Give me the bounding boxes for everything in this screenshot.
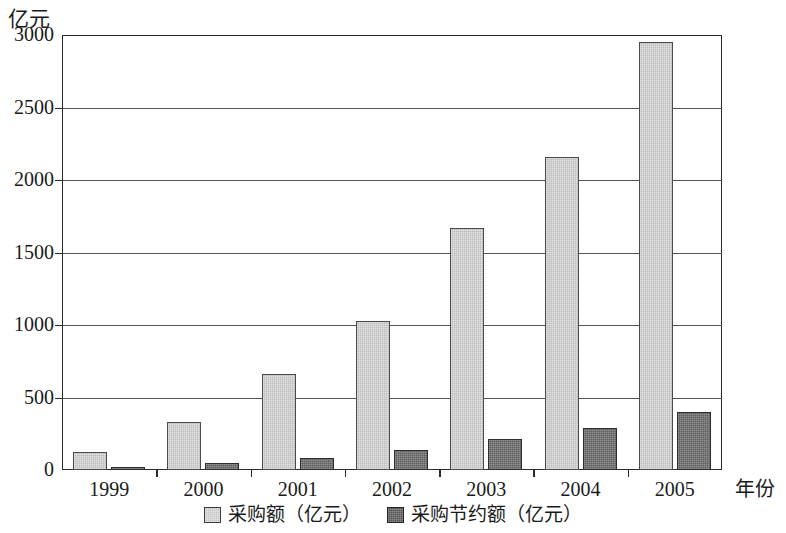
bar-chart: 亿元 300025002000150010005000 199920002001… [0, 0, 786, 533]
legend-item-savings: 采购节约额（亿元） [387, 505, 582, 525]
legend-label-primary: 采购额（亿元） [228, 505, 361, 525]
x-tick-mark [345, 470, 347, 477]
legend-item-procurement: 采购额（亿元） [204, 505, 361, 525]
bar-1999-series-2 [111, 467, 145, 470]
legend-swatch-primary-icon [204, 507, 221, 523]
x-tick-label-2005: 2005 [620, 478, 730, 500]
x-tick-mark [628, 470, 630, 477]
bar-2003-series-2 [488, 439, 522, 470]
y-tick-label: 1500 [0, 242, 54, 262]
x-tick-mark [156, 470, 158, 477]
bar-2005-series-1 [639, 42, 673, 470]
bar-2004-series-2 [583, 428, 617, 470]
legend-swatch-secondary-icon [387, 507, 404, 523]
x-tick-mark [533, 470, 535, 477]
bar-2001-series-1 [262, 374, 296, 470]
bar-2002-series-2 [394, 450, 428, 470]
bar-2005-series-2 [677, 412, 711, 470]
bar-2001-series-2 [300, 458, 334, 470]
bar-1999-series-1 [73, 452, 107, 470]
bar-2004-series-1 [545, 157, 579, 470]
bar-2000-series-1 [167, 422, 201, 470]
bar-2003-series-1 [450, 228, 484, 470]
y-tick-label: 500 [0, 387, 54, 407]
bars-layer [62, 35, 722, 470]
y-tick-label: 1000 [0, 314, 54, 334]
y-tick-label: 0 [0, 459, 54, 479]
bar-2000-series-2 [205, 463, 239, 470]
legend-label-secondary: 采购节约额（亿元） [411, 505, 582, 525]
y-tick-label: 2500 [0, 97, 54, 117]
x-tick-mark [251, 470, 253, 477]
y-tick-label: 3000 [0, 24, 54, 44]
y-tick-label: 2000 [0, 169, 54, 189]
x-axis-title: 年份 [735, 478, 775, 500]
x-tick-mark [439, 470, 441, 477]
bar-2002-series-1 [356, 321, 390, 470]
chart-legend: 采购额（亿元） 采购节约额（亿元） [0, 505, 786, 525]
